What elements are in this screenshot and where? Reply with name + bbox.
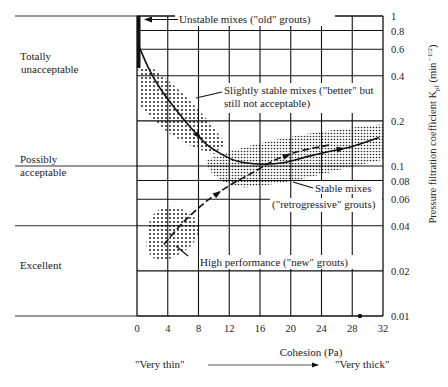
bottom-label-very-thin: "Very thin" [135, 358, 185, 370]
y-tick-label: 0.06 [391, 194, 409, 205]
x-tick-label: 8 [196, 323, 201, 334]
x-axis-label: Cohesion (Pa) [280, 346, 343, 359]
annotation-arrow-stable [293, 182, 313, 188]
x-tick-label: 16 [255, 323, 266, 334]
annotation-slightly-stable: still not acceptable) [224, 97, 310, 110]
y-tick-label: 0.04 [391, 221, 410, 232]
x-tick-label: 20 [286, 323, 297, 334]
y-tick-labels: 10.80.60.40.20.10.080.060.040.020.01 [391, 11, 410, 322]
y-tick-label: 1 [391, 11, 396, 22]
y-tick-label: 0.1 [391, 161, 404, 172]
x-tick-label: 32 [378, 323, 389, 334]
y-tick-label: 0.01 [391, 311, 409, 322]
x-tick-label: 24 [316, 323, 327, 334]
annotation-high-performance: High performance ("new" grouts) [200, 256, 348, 269]
y-axis-label-unit: (min [427, 62, 439, 85]
x-tick-label: 4 [165, 323, 171, 334]
y-tick-label: 0.2 [391, 116, 404, 127]
y-axis-label-close: ) [427, 44, 439, 48]
annotation-unstable: Unstable mixes ("old" grouts) [179, 13, 311, 26]
y-tick-label: 0.6 [391, 44, 404, 55]
y-tick-label: 0.8 [391, 26, 404, 37]
x-tick-label: 28 [347, 323, 358, 334]
annotation-arrow-slightly-stable [196, 92, 222, 98]
y-tick-label: 0.02 [391, 266, 409, 277]
x-tick-label: 12 [224, 323, 235, 334]
region-stable [206, 124, 383, 187]
annotation-slightly-stable: Slightly stable mixes ("better" but [224, 84, 374, 97]
chart: TotallyunacceptablePossiblyacceptableExc… [0, 0, 448, 387]
y-axis-label-main: Pressure filtration coefficient K [427, 91, 438, 224]
zone-label: unacceptable [21, 63, 79, 75]
zone-lines: TotallyunacceptablePossiblyacceptableExc… [15, 16, 137, 316]
direction-arrow [213, 189, 223, 198]
bottom-label-very-thick: "Very thick" [335, 358, 390, 370]
y-tick-label: 0.08 [391, 176, 409, 187]
data-point [358, 314, 362, 318]
y-axis-label: Pressure filtration coefficient Kpf (min… [426, 44, 441, 223]
zone-label: Totally [20, 50, 52, 62]
zone-label: Possibly [20, 153, 58, 165]
x-tick-label: 0 [134, 323, 139, 334]
x-tick-labels: 048121620242832 [134, 323, 388, 334]
y-axis-label-exp: −1/2 [426, 48, 434, 63]
zone-label: Excellent [20, 259, 62, 271]
grid [137, 16, 383, 316]
zone-label: acceptable [20, 166, 67, 178]
annotation-stable: Stable mixes [315, 182, 372, 194]
annotation-stable: ("retrogressive" grouts) [272, 198, 376, 211]
region-slightly-stable [139, 68, 226, 154]
y-tick-label: 0.4 [391, 71, 405, 82]
